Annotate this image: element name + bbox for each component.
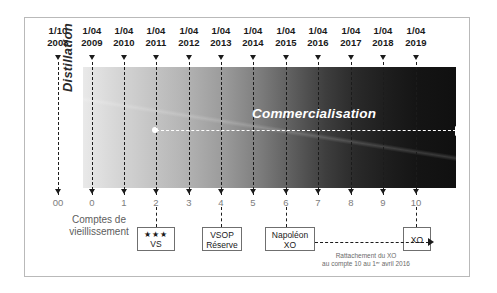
vs-label: VS xyxy=(138,239,174,249)
footnote-line1: Rattachement du XO xyxy=(336,252,397,259)
guide-line-2008 xyxy=(58,62,59,195)
commercialisation-arrow xyxy=(156,130,456,131)
vs-stars: ★★★ xyxy=(138,230,174,239)
guide-line-2014 xyxy=(253,62,254,195)
vsop-line1: VSOP xyxy=(203,230,241,240)
guide-line-2018 xyxy=(383,62,384,195)
account-arrow-8 xyxy=(348,189,354,194)
guide-line-2010 xyxy=(124,62,125,195)
guide-line-2017 xyxy=(351,62,352,195)
stem-vsop xyxy=(221,207,222,227)
account-arrow-5 xyxy=(250,189,256,194)
tick-arrow-2019 xyxy=(413,55,419,60)
commercialisation-label: Commercialisation xyxy=(252,106,376,121)
tick-arrow-2010 xyxy=(121,55,127,60)
tick-arrow-2011 xyxy=(153,55,159,60)
account-arrow-7 xyxy=(315,189,321,194)
account-arrow-4 xyxy=(218,189,224,194)
footnote: Rattachement du XO au compte 10 au 1ᵉʳ a… xyxy=(300,252,432,268)
account-arrow-2 xyxy=(153,189,159,194)
tick-arrow-2013 xyxy=(218,55,224,60)
xo-reassignment-connector xyxy=(315,242,429,243)
tick-arrow-2014 xyxy=(250,55,256,60)
account-arrow-10 xyxy=(413,189,419,194)
date-label-2019: 1/042019 xyxy=(396,25,436,48)
commercialisation-arrowhead-icon xyxy=(455,126,462,136)
product-box-napoleon-xo[interactable]: Napoléon XO xyxy=(265,227,315,251)
guide-line-2013 xyxy=(221,62,222,195)
xo-connector-arrowhead-icon xyxy=(428,238,434,246)
account-arrow-00 xyxy=(55,189,61,194)
tick-arrow-2018 xyxy=(380,55,386,60)
account-arrow-6 xyxy=(283,189,289,194)
stem-napoleon xyxy=(286,207,287,227)
product-box-xo[interactable]: XO xyxy=(403,227,431,251)
vsop-line2: Réserve xyxy=(203,240,241,250)
tick-arrow-2012 xyxy=(186,55,192,60)
account-arrow-9 xyxy=(380,189,386,194)
stem-xo xyxy=(416,207,417,227)
tick-arrow-2015 xyxy=(283,55,289,60)
account-arrow-0 xyxy=(89,189,95,194)
timeline-diagram: 1/102008 1/042009 1/042010 1/042011 1/04… xyxy=(0,0,497,293)
guide-line-2016 xyxy=(318,62,319,195)
aging-gradient-band xyxy=(83,67,456,188)
band-streak xyxy=(83,67,456,188)
guide-line-2015 xyxy=(286,62,287,195)
guide-line-2019 xyxy=(416,62,417,195)
account-arrow-3 xyxy=(186,189,192,194)
xo-label: XO xyxy=(404,235,430,245)
stem-vs xyxy=(156,207,157,227)
tick-arrow-2016 xyxy=(315,55,321,60)
plot-area: 1/102008 1/042009 1/042010 1/042011 1/04… xyxy=(0,0,497,293)
product-box-vsop[interactable]: VSOP Réserve xyxy=(202,227,242,251)
product-box-vs[interactable]: ★★★ VS xyxy=(137,227,175,251)
footnote-line2: au compte 10 au 1ᵉʳ avril 2016 xyxy=(322,260,410,267)
tick-arrow-2009 xyxy=(89,55,95,60)
distillation-label: Distillation xyxy=(60,23,75,92)
guide-line-2009 xyxy=(92,62,93,195)
tick-arrow-2017 xyxy=(348,55,354,60)
guide-line-2012 xyxy=(189,62,190,195)
account-arrow-1 xyxy=(121,189,127,194)
napoleon-line1: Napoléon xyxy=(266,230,314,240)
napoleon-line2: XO xyxy=(266,240,314,250)
